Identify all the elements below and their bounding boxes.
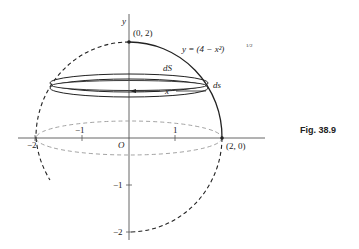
band-dS-label: dS xyxy=(163,63,173,73)
point-top xyxy=(127,40,131,44)
x-tick-label-minus1: −1 xyxy=(75,125,85,135)
y-axis-label: y xyxy=(121,16,126,26)
curve-exponent-label: 1/2 xyxy=(246,43,253,48)
circle-dashed-lower-right xyxy=(129,138,222,232)
curve-equation-label: y = (4 − x²) xyxy=(181,44,224,54)
x-tick-label-1: 1 xyxy=(173,125,178,135)
arc-ds-label: ds xyxy=(213,80,222,90)
top-point-label: (0, 2) xyxy=(133,28,153,38)
y-tick-label-minus1: −1 xyxy=(113,180,123,190)
origin-label: O xyxy=(118,140,125,150)
right-point-label: (2, 0) xyxy=(226,141,246,151)
radius-x-label: x xyxy=(164,86,169,96)
surface-of-revolution-figure: y (0, 2) y = (4 − x²) 1/2 dS ds x O (2, … xyxy=(0,0,359,249)
point-right xyxy=(220,136,224,140)
y-tick-label-minus2: −2 xyxy=(113,227,123,237)
figure-caption: Fig. 38.9 xyxy=(300,125,336,135)
x-tick-label-minus2: −2 xyxy=(27,140,37,150)
